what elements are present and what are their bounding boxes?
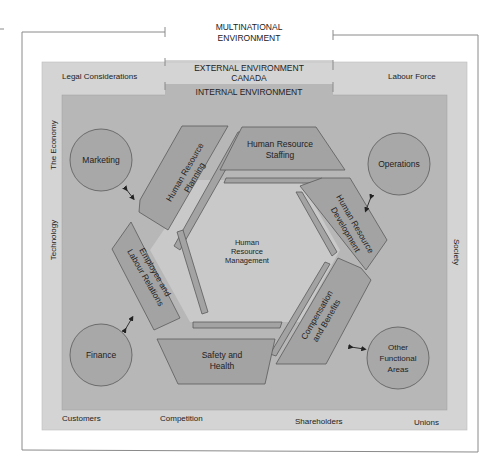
factor-customers: Customers	[62, 414, 101, 423]
factor-unions: Unions	[414, 418, 439, 427]
internal-label: INTERNAL ENVIRONMENT	[196, 87, 303, 97]
circle-operations: Operations	[368, 133, 430, 195]
diagram-canvas: MULTINATIONAL ENVIRONMENT EXTERNAL ENVIR…	[0, 0, 499, 471]
factor-legal-considerations: Legal Considerations	[62, 72, 137, 81]
circle-marketing: Marketing	[70, 129, 132, 191]
svg-text:Staffing: Staffing	[266, 150, 295, 160]
external-label-1: EXTERNAL ENVIRONMENT	[194, 63, 304, 73]
svg-text:Safety and: Safety and	[202, 350, 243, 360]
multinational-label-2: ENVIRONMENT	[218, 33, 281, 43]
svg-text:Health: Health	[210, 361, 235, 371]
svg-text:Functional: Functional	[380, 354, 417, 363]
factor-shareholders: Shareholders	[295, 417, 343, 426]
svg-text:Operations: Operations	[378, 159, 420, 169]
svg-text:Other: Other	[388, 343, 408, 352]
factor-technology: Technology	[49, 220, 58, 260]
svg-text:Human Resource: Human Resource	[247, 139, 313, 149]
svg-text:Human: Human	[235, 238, 259, 247]
svg-text:Resource: Resource	[231, 247, 263, 256]
svg-text:Management: Management	[225, 256, 270, 265]
factor-the-economy: The Economy	[49, 120, 58, 169]
circle-other-functional-areas: Other Functional Areas	[367, 327, 429, 389]
factor-society: Society	[452, 239, 461, 265]
factor-competition: Competition	[160, 414, 203, 423]
hrm-environment-diagram: MULTINATIONAL ENVIRONMENT EXTERNAL ENVIR…	[0, 0, 499, 471]
svg-text:Finance: Finance	[86, 350, 117, 360]
svg-text:Marketing: Marketing	[82, 155, 120, 165]
factor-labour-force: Labour Force	[388, 72, 436, 81]
external-label-2: CANADA	[231, 73, 267, 83]
multinational-label-1: MULTINATIONAL	[216, 22, 283, 32]
circle-finance: Finance	[70, 324, 132, 386]
svg-text:Areas: Areas	[388, 365, 409, 374]
